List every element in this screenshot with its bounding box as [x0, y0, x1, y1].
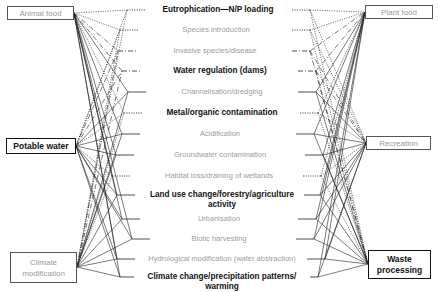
pressure-habitat-loss: Habitat loss/draining of wetlands	[162, 171, 276, 181]
service-box-recreation: Recreation	[366, 136, 431, 150]
pressure-biotic-harvesting: Biotic harvesting	[188, 234, 249, 244]
service-box-waste-processing: Waste processing	[368, 250, 431, 279]
pressure-invasive-species: Invasive species/disease	[171, 46, 260, 56]
pressure-metal-organic-contamination: Metal/organic contamination	[164, 108, 281, 118]
service-box-climate-modification: Climate modification	[10, 252, 77, 283]
service-label: Climate modification	[17, 257, 70, 279]
service-label: Potable water	[13, 141, 68, 152]
service-label: Animal food	[19, 8, 61, 19]
pressure-hydrological-modification: Hydrological modification (water abstrac…	[145, 254, 299, 264]
pressure-land-use-change: Land use change/forestry/agriculture act…	[140, 190, 304, 210]
pressure-channelisation: Channelisation/dredging	[179, 87, 266, 97]
service-label: Waste processing	[377, 254, 422, 276]
service-label: Plant food	[381, 7, 417, 18]
pressure-acidification: Acidification	[197, 129, 243, 139]
service-box-animal-food: Animal food	[7, 6, 74, 20]
pressure-service-network-diagram: Animal food Potable water Climate modifi…	[0, 0, 438, 292]
pressure-eutrophication: Eutrophication—N/P loading	[160, 5, 277, 15]
pressure-species-introduction: Species introduction	[179, 25, 253, 35]
service-box-plant-food: Plant food	[365, 5, 433, 19]
pressure-climate-change: Climate change/precipitation patterns/ w…	[134, 272, 310, 292]
pressure-water-regulation: Water regulation (dams)	[170, 66, 269, 76]
service-label: Recreation	[379, 138, 418, 149]
pressure-groundwater-contamination: Groundwater contamination	[171, 150, 269, 160]
pressure-urbanisation: Urbanisation	[195, 214, 243, 224]
service-box-potable-water: Potable water	[6, 138, 76, 154]
